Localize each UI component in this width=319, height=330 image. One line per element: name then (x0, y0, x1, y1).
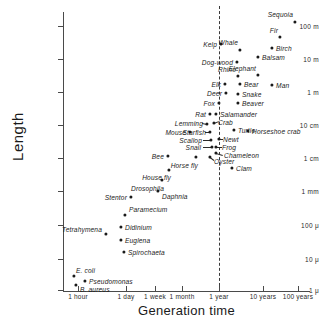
x-axis-tick (126, 286, 127, 292)
x-axis-tick (298, 286, 299, 292)
x-axis-tick-label: 1 hour (68, 293, 88, 300)
data-point-label: Clam (236, 165, 252, 172)
data-point-label: Daphnia (162, 193, 188, 200)
y-axis-tick-label: 10 μ (263, 256, 319, 263)
x-axis-tick-label: 100 years (283, 293, 313, 300)
data-point (83, 279, 86, 282)
data-point-label: Salamander (220, 111, 257, 118)
x-axis-tick (182, 286, 183, 292)
y-axis-tick (58, 26, 64, 27)
data-point (209, 138, 212, 141)
y-axis-tick-label: 1 mm (263, 188, 319, 195)
data-point-label: Didinium (125, 224, 152, 231)
data-point-label: Lemming (175, 120, 203, 127)
data-point-label: Stentor (105, 194, 127, 201)
data-point (208, 130, 211, 133)
data-point-label: Birch (276, 45, 292, 52)
data-point (217, 101, 220, 104)
y-axis-tick-label: 1 m (263, 89, 319, 96)
data-point (230, 166, 233, 169)
x-axis-tick (219, 286, 220, 292)
data-point-label: Snail (186, 144, 201, 151)
y-axis-tick (58, 290, 64, 291)
data-point (205, 122, 208, 125)
data-point (214, 145, 217, 148)
data-point (224, 91, 227, 94)
data-point (256, 55, 259, 58)
y-axis-tick (58, 59, 64, 60)
data-point-label: Crab (218, 119, 233, 126)
data-point (238, 48, 241, 51)
data-point-label: Mouse (165, 129, 186, 136)
data-point-label: Rat (195, 111, 206, 118)
data-point (166, 154, 169, 157)
data-point-label: Horse fly (171, 162, 198, 169)
data-point (270, 83, 273, 86)
x-axis-tick-label: 1 month (170, 293, 195, 300)
data-point-label: Turtle (238, 127, 255, 134)
data-point (72, 274, 75, 277)
data-point-label: Newt (223, 136, 239, 143)
y-axis-tick (58, 158, 64, 159)
data-point-label: Beaver (242, 100, 264, 107)
x-axis-title: Generation time (63, 303, 310, 318)
data-point-label: Tetrahymena (62, 226, 102, 233)
data-point (208, 112, 211, 115)
one-year-reference-line (219, 6, 220, 291)
data-point-label: E. coli (76, 267, 95, 274)
data-point-label: Euglena (125, 237, 150, 244)
data-point (217, 137, 220, 140)
data-point (156, 189, 159, 192)
data-point-label: Spirochaeta (128, 249, 165, 256)
y-axis-tick (58, 92, 64, 93)
data-point-label: House fly (142, 174, 171, 181)
data-point-label: Elk (211, 81, 221, 88)
data-point (104, 232, 107, 235)
y-axis-tick-label: 100 μ (263, 222, 319, 229)
data-point (223, 82, 226, 85)
data-point-label: Scallop (179, 137, 202, 144)
data-point (123, 213, 126, 216)
data-point-label: Oyster (214, 158, 234, 165)
y-axis-tick-label: 1 cm (263, 155, 319, 162)
data-point (194, 155, 197, 158)
x-axis-tick-label: 1 year (209, 293, 228, 300)
data-point-label: Sequoia (268, 11, 293, 18)
data-point (232, 128, 235, 131)
data-point (160, 178, 163, 181)
data-point (214, 112, 217, 115)
data-point (270, 46, 273, 49)
y-axis-title: Length (9, 102, 26, 172)
data-point-label: Paramecium (129, 206, 168, 213)
data-point (236, 74, 239, 77)
data-point-label: Pseudomonas (89, 278, 133, 285)
data-point (235, 60, 238, 63)
data-point (236, 101, 239, 104)
data-point-label: Horseshoe crab (252, 128, 301, 135)
data-point-label: Balsam (262, 54, 285, 61)
y-axis-line (63, 12, 64, 291)
data-point (278, 35, 281, 38)
y-axis-tick (58, 191, 64, 192)
data-point-label: Kelp (203, 41, 217, 48)
data-point (236, 92, 239, 95)
data-point-label: Bee (152, 153, 164, 160)
data-point-label: Man (276, 82, 289, 89)
data-point (122, 250, 125, 253)
data-point-label: B. aureus (80, 286, 110, 293)
data-point (212, 121, 215, 124)
length-vs-generation-time-scatter-chart: 100 m10 m1 m10 cm1 cm1 mm100 μ10 μ1 μ 1 … (0, 0, 319, 330)
x-axis-tick-label: 1 week (144, 293, 166, 300)
data-point (167, 168, 170, 171)
data-point (238, 82, 241, 85)
data-point-label: Fox (204, 100, 215, 107)
x-axis-tick (78, 286, 79, 292)
y-axis-tick (58, 259, 64, 260)
data-point-label: Deer (207, 90, 222, 97)
data-point-label: Snake (242, 91, 261, 98)
data-point (210, 145, 213, 148)
x-axis-tick-label: 1 day (118, 293, 135, 300)
y-axis-tick (58, 125, 64, 126)
data-point-label: Rhino (218, 66, 236, 73)
data-point-label: Bear (244, 81, 259, 88)
